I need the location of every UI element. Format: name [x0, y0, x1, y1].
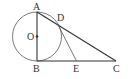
label-o: O — [27, 31, 34, 42]
label-b: B — [33, 63, 40, 74]
center-point-o — [36, 35, 39, 38]
segment-ac — [37, 12, 116, 61]
label-e: E — [73, 63, 79, 74]
label-c: C — [113, 63, 120, 74]
label-d: D — [57, 12, 64, 23]
geometry-diagram: A D O B E C — [0, 0, 130, 79]
label-a: A — [33, 1, 41, 12]
